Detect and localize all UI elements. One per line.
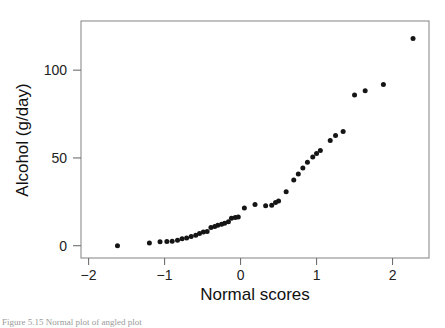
data-point bbox=[305, 160, 310, 165]
data-point bbox=[253, 202, 258, 207]
x-tick-label: 2 bbox=[389, 267, 397, 283]
data-point bbox=[170, 239, 175, 244]
data-point bbox=[300, 165, 305, 170]
y-tick-label: 50 bbox=[51, 150, 67, 166]
figure-container: −2−1012 050100 Normal scores Alcohol (g/… bbox=[0, 0, 445, 328]
data-point bbox=[263, 203, 268, 208]
data-point bbox=[147, 241, 152, 246]
x-axis-title: Normal scores bbox=[200, 285, 310, 304]
y-tick-label: 100 bbox=[44, 62, 68, 78]
data-point bbox=[205, 229, 210, 234]
x-tick-label: 0 bbox=[237, 267, 245, 283]
data-point bbox=[180, 236, 185, 241]
data-point bbox=[381, 82, 386, 87]
data-point bbox=[411, 36, 416, 41]
qq-plot-svg: −2−1012 050100 Normal scores Alcohol (g/… bbox=[0, 0, 445, 328]
data-point bbox=[363, 88, 368, 93]
data-point bbox=[341, 129, 346, 134]
data-point bbox=[236, 215, 241, 220]
x-tick-label: −1 bbox=[157, 267, 173, 283]
data-point bbox=[164, 239, 169, 244]
data-point bbox=[296, 172, 301, 177]
data-point bbox=[328, 138, 333, 143]
data-point bbox=[184, 235, 189, 240]
y-tick-label: 0 bbox=[59, 238, 67, 254]
data-point bbox=[333, 133, 338, 138]
data-point bbox=[276, 198, 281, 203]
data-point bbox=[175, 238, 180, 243]
data-point bbox=[291, 177, 296, 182]
data-point bbox=[242, 205, 247, 210]
data-point bbox=[158, 239, 163, 244]
x-tick-label: −2 bbox=[81, 267, 97, 283]
y-axis-title: Alcohol (g/day) bbox=[13, 83, 32, 196]
figure-caption: Figure 5.15 Normal plot of angled plot bbox=[2, 317, 142, 327]
data-point bbox=[310, 154, 315, 159]
data-point bbox=[189, 234, 194, 239]
data-point bbox=[284, 189, 289, 194]
x-tick-label: 1 bbox=[313, 267, 321, 283]
data-point bbox=[352, 93, 357, 98]
data-point bbox=[115, 243, 120, 248]
data-point bbox=[318, 148, 323, 153]
